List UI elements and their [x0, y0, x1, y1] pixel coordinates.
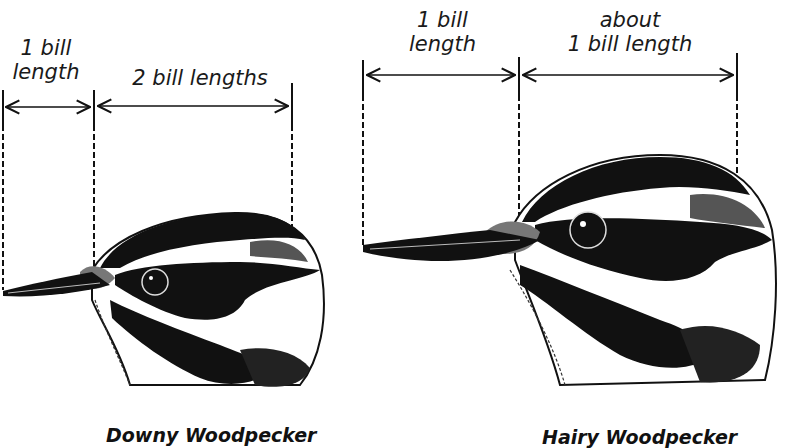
hairy-bill-label: 1 bill length [370, 8, 515, 56]
hairy-bill-label-line2: length [370, 32, 515, 56]
downy-head-label: 2 bill lengths [110, 66, 290, 90]
hairy-caption: Hairy Woodpecker [542, 426, 737, 448]
hairy-head-label-line2: 1 bill length [530, 32, 730, 56]
downy-bill-label: 1 bill length [0, 36, 92, 84]
hairy-head-label-line1: about [530, 8, 730, 32]
downy-bill-label-line1: 1 bill [0, 36, 92, 60]
hairy-woodpecker-head [363, 155, 776, 385]
hairy-bill-label-line1: 1 bill [370, 8, 515, 32]
downy-woodpecker-head [3, 213, 324, 387]
downy-bill-label-line2: length [0, 60, 92, 84]
downy-caption: Downy Woodpecker [106, 424, 317, 446]
hairy-head-label: about 1 bill length [530, 8, 730, 56]
